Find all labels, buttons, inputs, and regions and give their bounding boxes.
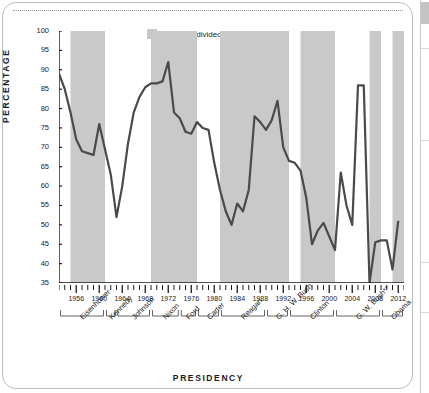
x-axis-title: PRESIDENCY: [3, 373, 414, 383]
chart-container: PERCENTAGE 10095908580757065605550454035…: [3, 3, 414, 390]
y-tick-label: 95: [27, 46, 49, 54]
y-axis-title: PERCENTAGE: [1, 49, 11, 123]
y-tick-label: 85: [27, 85, 49, 93]
y-tick-label: 75: [27, 124, 49, 132]
y-tick-label: 80: [27, 105, 49, 113]
y-tick-label: 50: [27, 221, 49, 229]
divided-government-band: [151, 31, 197, 283]
presidency-labels: EisenhowerKennedyJohnsonNixonFordCarterR…: [3, 313, 414, 375]
scrollbar-divider-1: [421, 48, 429, 49]
divided-government-band: [393, 31, 405, 283]
scrollbar[interactable]: [420, 0, 429, 393]
chart-card: PERCENTAGE 10095908580757065605550454035…: [2, 2, 413, 389]
divided-government-band: [71, 31, 106, 283]
scrollbar-divider-3: [421, 262, 429, 263]
divided-government-band: [220, 31, 289, 283]
line-chart-svg: [59, 31, 404, 283]
y-tick-label: 35: [27, 279, 49, 287]
scrollbar-thumb[interactable]: [421, 2, 429, 24]
y-tick-label: 65: [27, 163, 49, 171]
y-tick-label: 100: [27, 27, 49, 35]
y-tick-label: 40: [27, 260, 49, 268]
scrollbar-divider-4: [421, 312, 429, 313]
scrollbar-divider-2: [421, 140, 429, 141]
divided-government-band: [301, 31, 336, 283]
y-tick-label: 90: [27, 66, 49, 74]
y-tick-label: 70: [27, 143, 49, 151]
y-tick-label: 55: [27, 201, 49, 209]
y-tick-label: 60: [27, 182, 49, 190]
plot-area: [59, 31, 404, 283]
y-tick-label: 45: [27, 240, 49, 248]
